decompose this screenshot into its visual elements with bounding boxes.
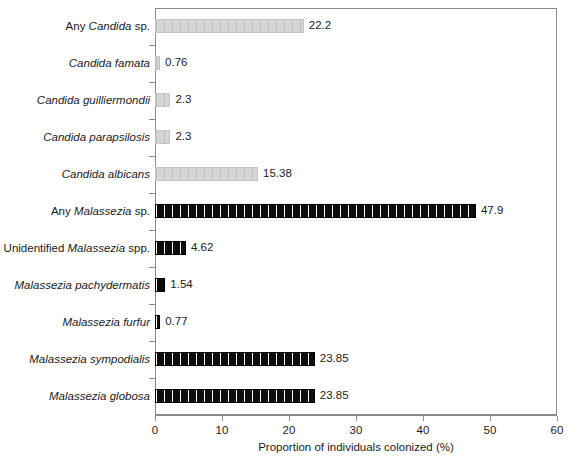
category-label: Malassezia globosa bbox=[0, 389, 150, 403]
bar bbox=[155, 278, 165, 292]
x-axis-tick bbox=[490, 416, 491, 421]
x-axis-title: Proportion of individuals colonized (%) bbox=[155, 440, 557, 454]
bar-row: 2.3 bbox=[155, 119, 557, 156]
bars-area: 22.20.762.32.315.3847.94.621.540.7723.85… bbox=[155, 8, 557, 415]
bar-row: 0.77 bbox=[155, 304, 557, 341]
bar-value-label: 0.76 bbox=[165, 55, 187, 69]
x-axis-tick-label: 40 bbox=[417, 423, 430, 437]
x-axis-tick bbox=[423, 416, 424, 421]
bar bbox=[155, 204, 476, 218]
bar-value-label: 4.62 bbox=[191, 240, 213, 254]
category-label: Malassezia sympodialis bbox=[0, 352, 150, 366]
x-axis-tick-label: 60 bbox=[551, 423, 564, 437]
x-axis-tick-label: 0 bbox=[152, 423, 158, 437]
bar-value-label: 22.2 bbox=[309, 18, 331, 32]
x-axis-tick bbox=[222, 416, 223, 421]
bar bbox=[155, 56, 160, 70]
bar-value-label: 1.54 bbox=[170, 277, 192, 291]
bar bbox=[155, 389, 315, 403]
category-axis-labels: Any Candida sp.Candida famataCandida gui… bbox=[0, 8, 150, 415]
bar-row: 4.62 bbox=[155, 230, 557, 267]
bar-value-label: 23.85 bbox=[320, 388, 349, 402]
bar-value-label: 23.85 bbox=[320, 351, 349, 365]
category-label: Any Candida sp. bbox=[0, 19, 150, 33]
bar-value-label: 47.9 bbox=[481, 203, 503, 217]
x-axis-tick-label: 30 bbox=[350, 423, 363, 437]
bar-row: 23.85 bbox=[155, 378, 557, 415]
bar bbox=[155, 352, 315, 366]
bar-chart-figure: Any Candida sp.Candida famataCandida gui… bbox=[0, 0, 577, 462]
category-label: Malassezia furfur bbox=[0, 315, 150, 329]
bar-value-label: 2.3 bbox=[175, 129, 191, 143]
bar bbox=[155, 19, 304, 33]
bar-row: 23.85 bbox=[155, 341, 557, 378]
bar-row: 0.76 bbox=[155, 45, 557, 82]
bar-row: 47.9 bbox=[155, 193, 557, 230]
bar-row: 2.3 bbox=[155, 82, 557, 119]
x-axis-ticks bbox=[155, 416, 557, 422]
x-axis-tick-label: 10 bbox=[216, 423, 229, 437]
bar bbox=[155, 93, 170, 107]
bar-row: 15.38 bbox=[155, 156, 557, 193]
bar bbox=[155, 241, 186, 255]
x-axis-tick-label: 50 bbox=[484, 423, 497, 437]
bar bbox=[155, 167, 258, 181]
bar-value-label: 0.77 bbox=[165, 314, 187, 328]
x-axis-tick bbox=[289, 416, 290, 421]
x-axis-tick bbox=[356, 416, 357, 421]
category-label: Candida albicans bbox=[0, 167, 150, 181]
x-axis-tick-label: 20 bbox=[283, 423, 296, 437]
bar-value-label: 2.3 bbox=[175, 92, 191, 106]
bar-row: 1.54 bbox=[155, 267, 557, 304]
category-label: Candida parapsilosis bbox=[0, 130, 150, 144]
bar-row: 22.2 bbox=[155, 8, 557, 45]
category-label: Candida guilliermondii bbox=[0, 93, 150, 107]
category-label: Candida famata bbox=[0, 56, 150, 70]
x-axis-tick-labels: 0102030405060 bbox=[155, 423, 557, 439]
bar bbox=[155, 130, 170, 144]
category-label: Unidentified Malassezia spp. bbox=[0, 241, 150, 255]
category-label: Any Malassezia sp. bbox=[0, 204, 150, 218]
x-axis-tick bbox=[155, 416, 156, 421]
x-axis-tick bbox=[557, 416, 558, 421]
bar bbox=[155, 315, 160, 329]
category-label: Malassezia pachydermatis bbox=[0, 278, 150, 292]
bar-value-label: 15.38 bbox=[263, 166, 292, 180]
